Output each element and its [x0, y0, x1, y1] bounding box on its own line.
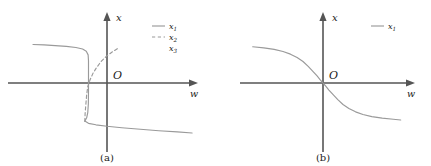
x-axis-label: w [190, 88, 198, 99]
legend-label: x3 [169, 44, 178, 54]
legend-panel-b: x1 [371, 22, 396, 32]
legend-item-x2[interactable]: x2 [152, 33, 178, 43]
x-axis-label: w [407, 88, 415, 99]
legend-item-x1[interactable]: x1 [152, 22, 177, 32]
panel-caption-b: (b) [316, 152, 330, 163]
legend-label-subscript: 1 [174, 26, 178, 32]
panel-a: xwOx1x2x3(a) [8, 12, 198, 163]
curve-x2 [85, 48, 118, 121]
origin-label: O [329, 69, 338, 82]
origin-label: O [113, 69, 122, 82]
legend-label-subscript: 1 [393, 26, 397, 32]
legend-label: x2 [169, 33, 178, 43]
panel-caption-a: (a) [100, 152, 114, 163]
legend-label-subscript: 2 [173, 37, 178, 43]
vertical-axis-arrowhead [319, 12, 326, 21]
horizontal-axis-arrowhead [406, 79, 415, 86]
legend-item-x1[interactable]: x1 [371, 22, 396, 32]
figure-container: xwOx1x2x3(a)xwOx1(b) [0, 0, 431, 166]
curve-x1 [33, 45, 192, 133]
y-axis-label: x [116, 12, 122, 23]
legend-item-x3[interactable]: x3 [169, 44, 178, 54]
legend-label: x1 [169, 22, 177, 32]
y-axis-label: x [332, 12, 338, 23]
vertical-axis-arrowhead [103, 12, 110, 21]
legend-label: x1 [388, 22, 396, 32]
panel-b: xwOx1(b) [240, 12, 415, 163]
bifurcation-figure: xwOx1x2x3(a)xwOx1(b) [0, 0, 431, 166]
horizontal-axis-arrowhead [189, 79, 198, 86]
legend-panel-a: x1x2x3 [152, 22, 178, 54]
legend-label-subscript: 3 [174, 48, 178, 54]
